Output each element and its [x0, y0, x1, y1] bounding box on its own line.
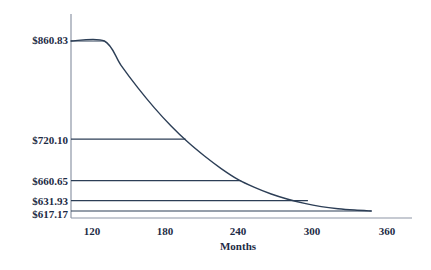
x-tick-label-4: 360	[370, 225, 404, 237]
chart-container: $860.83 $720.10 $660.65 $631.93 $617.17 …	[0, 0, 431, 270]
x-tick-label-0: 120	[75, 225, 109, 237]
x-tick-label-1: 180	[148, 225, 182, 237]
x-tick-label-3: 300	[295, 225, 329, 237]
y-tick-label-3: $631.93	[32, 195, 68, 207]
x-tick-label-2: 240	[221, 225, 255, 237]
x-axis-title: Months	[205, 240, 271, 252]
y-tick-label-2: $660.65	[32, 175, 68, 187]
y-tick-label-0: $860.83	[32, 34, 68, 46]
y-tick-label-1: $720.10	[32, 134, 68, 146]
data-series-line	[71, 39, 371, 211]
y-tick-label-4: $617.17	[32, 208, 68, 220]
reference-lines-group	[71, 41, 371, 211]
